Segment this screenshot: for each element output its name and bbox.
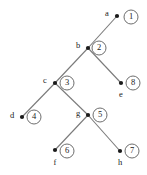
order-label-c: 3 [65,77,69,87]
edge-g-f [55,115,88,150]
tree-diagram: a1b2c3d4e8g5f6h7 [0,0,147,175]
node-dot-g[interactable] [86,113,90,117]
order-label-h: 7 [130,145,134,155]
node-dot-a[interactable] [115,14,119,18]
vertex-label-a: a [105,8,109,18]
order-label-g: 5 [98,109,102,119]
node-h[interactable]: h7 [118,144,139,167]
tree-graph-canvas: a1b2c3d4e8g5f6h7 [0,0,147,175]
node-dot-h[interactable] [118,149,122,153]
vertex-label-g: g [76,108,81,118]
vertex-label-e: e [119,89,123,99]
order-label-a: 1 [129,11,133,21]
nodes-group: a1b2c3d4e8g5f6h7 [10,8,140,167]
node-f[interactable]: f6 [53,144,74,167]
node-a[interactable]: a1 [105,8,138,24]
order-label-e: 8 [131,77,135,87]
vertex-label-f: f [54,157,57,167]
edge-b-e [88,48,121,83]
node-dot-d[interactable] [20,115,24,119]
node-dot-f[interactable] [53,148,57,152]
vertex-label-h: h [118,157,123,167]
node-c[interactable]: c3 [43,75,74,90]
node-dot-b[interactable] [86,46,90,50]
vertex-label-b: b [76,40,80,50]
node-dot-e[interactable] [119,81,123,85]
node-g[interactable]: g5 [76,108,107,122]
node-dot-c[interactable] [53,81,57,85]
node-d[interactable]: d4 [10,110,41,124]
node-e[interactable]: e8 [119,76,140,99]
order-label-b: 2 [97,42,101,52]
order-label-f: 6 [65,145,69,155]
node-b[interactable]: b2 [76,40,106,55]
vertex-label-d: d [10,110,15,120]
vertex-label-c: c [43,75,47,85]
